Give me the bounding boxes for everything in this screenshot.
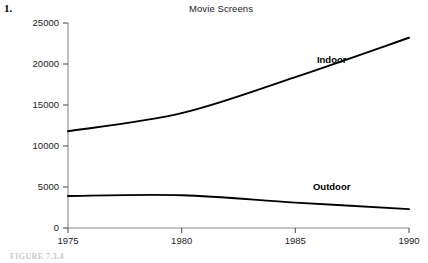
figure-caption: FIGURE 7.3.4 [10, 252, 64, 261]
x-axis-ticks [68, 228, 409, 233]
y-tick-label: 25000 [33, 17, 59, 28]
y-axis-tick-labels: 0500010000150002000025000 [33, 17, 59, 233]
x-tick-label: 1990 [398, 235, 419, 246]
y-axis-ticks [63, 23, 68, 228]
y-tick-label: 0 [54, 222, 59, 233]
y-tick-label: 15000 [33, 99, 59, 110]
series-label-indoor: Indoor [317, 54, 347, 65]
y-tick-label: 5000 [38, 181, 59, 192]
line-chart: 0500010000150002000025000 19751980198519… [0, 0, 428, 263]
series-line-outdoor [68, 195, 409, 209]
x-axis-tick-labels: 1975198019851990 [57, 235, 419, 246]
y-tick-label: 10000 [33, 140, 59, 151]
x-tick-label: 1980 [171, 235, 192, 246]
x-tick-label: 1975 [57, 235, 78, 246]
series-label-outdoor: Outdoor [313, 181, 351, 192]
x-tick-label: 1985 [285, 235, 306, 246]
y-tick-label: 20000 [33, 58, 59, 69]
series-line-indoor [68, 38, 409, 131]
figure-root: 1. Movie Screens 05000100001500020000250… [0, 0, 428, 263]
